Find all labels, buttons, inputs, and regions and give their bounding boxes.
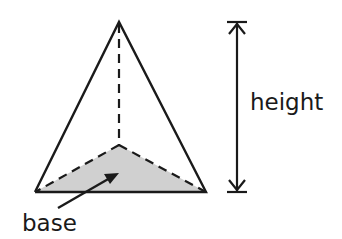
height-label: height <box>250 89 323 115</box>
base-label: base <box>22 210 77 236</box>
pyramid-diagram: height base <box>0 0 342 239</box>
height-indicator <box>227 22 247 192</box>
base-face <box>35 145 206 192</box>
